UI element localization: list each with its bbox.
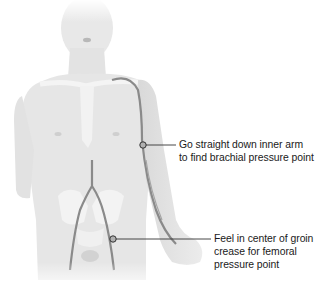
brachial-label-line-2: to find brachial pressure point bbox=[179, 151, 314, 164]
groin bbox=[81, 250, 99, 262]
brachial-label-line-1: Go straight down inner arm bbox=[179, 138, 314, 151]
femoral-label-line-2: crease for femoral bbox=[214, 245, 313, 258]
mouth bbox=[83, 38, 91, 42]
brachial-label: Go straight down inner arm to find brach… bbox=[179, 138, 314, 164]
femoral-label: Feel in center of groin crease for femor… bbox=[214, 232, 313, 272]
femoral-label-line-1: Feel in center of groin bbox=[214, 232, 313, 245]
femoral-marker-icon bbox=[110, 236, 116, 242]
neck bbox=[68, 48, 106, 78]
brachial-marker-icon bbox=[140, 142, 146, 148]
sternum bbox=[80, 86, 94, 148]
femoral-label-line-3: pressure point bbox=[214, 258, 313, 271]
